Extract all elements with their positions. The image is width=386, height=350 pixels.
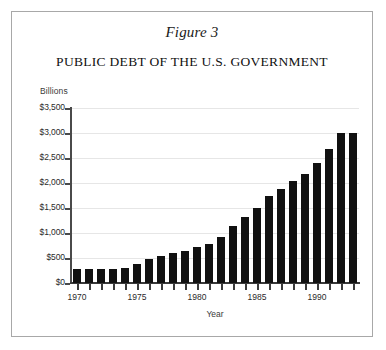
x-axis-tick-mark [233,284,235,290]
x-axis-tick-label: 1990 [308,292,327,302]
bar [277,189,285,283]
bar [229,226,237,283]
x-axis-tick-label: 1970 [68,292,87,302]
x-axis-tick-mark [125,284,127,290]
x-axis-tick-mark [137,284,139,290]
bar [157,256,165,283]
bar [193,247,201,283]
x-axis-tick-mark [197,284,199,290]
x-axis-tick-mark [317,284,319,290]
x-axis-tick-mark [101,284,103,290]
bar [109,269,117,283]
bar [313,163,321,284]
y-axis-tick-label: $3,500 [40,102,65,112]
bar [205,244,213,283]
x-axis-tick-mark [257,284,259,290]
bar [337,133,345,283]
bar [145,259,153,283]
y-axis-unit-label: Billions [40,86,68,96]
x-axis-tick-mark [89,284,91,290]
x-axis-tick-mark [281,284,283,290]
bar [265,196,273,283]
x-axis-tick-mark [113,284,115,290]
x-axis-tick-mark [353,284,355,290]
x-axis-tick-label: 1985 [248,292,267,302]
x-axis-tick-mark [185,284,187,290]
bar [349,133,357,283]
bar [85,269,93,283]
figure-label: Figure 3 [12,24,372,41]
y-axis-tick-label: $3,000 [40,127,65,137]
x-axis-tick-mark [161,284,163,290]
bar [253,208,261,283]
x-axis-tick-mark [209,284,211,290]
x-axis-tick-mark [293,284,295,290]
y-axis-tick-label: $1,500 [40,202,65,212]
x-axis-tick-mark [221,284,223,290]
x-axis-tick-label: 1975 [128,292,147,302]
bar [217,237,225,283]
bar [97,269,105,283]
bar [121,268,129,283]
x-axis-title: Year [70,309,360,319]
bar [133,264,141,283]
bar [301,174,309,284]
bar [325,149,333,284]
bar [73,269,81,283]
x-axis-tick-label: 1980 [188,292,207,302]
x-axis-tick-mark [305,284,307,290]
y-axis-tick-label: $2,500 [40,152,65,162]
x-axis-tick-mark [173,284,175,290]
y-axis-tick-label: $2,000 [40,177,65,187]
x-axis-tick-mark [245,284,247,290]
x-axis-tick-mark [77,284,79,290]
figure-frame: Figure 3 PUBLIC DEBT OF THE U.S. GOVERNM… [11,11,373,337]
bar [289,181,297,284]
chart-title: PUBLIC DEBT OF THE U.S. GOVERNMENT [12,54,372,70]
x-axis-tick-mark [269,284,271,290]
bar [169,253,177,283]
x-axis-tick-mark [341,284,343,290]
bar [241,217,249,283]
bar [181,251,189,283]
plot-area [71,108,359,283]
y-axis-tick-label: $1,000 [40,227,65,237]
y-axis-tick-label: $500 [46,252,65,262]
x-axis-tick-mark [329,284,331,290]
x-axis-tick-mark [149,284,151,290]
y-axis-tick-label: $0 [56,277,65,287]
